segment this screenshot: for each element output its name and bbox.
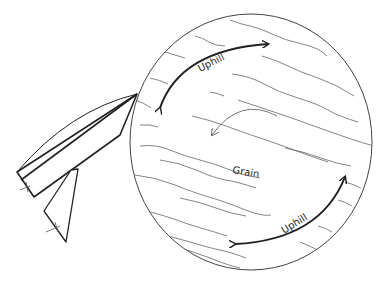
- grain-lines: [135, 20, 384, 268]
- uphill-arrow-bottom: [235, 177, 345, 244]
- tool-bevel-line: [21, 94, 137, 180]
- uphill-arrow-top: [160, 44, 268, 108]
- grain-label: Grain: [232, 164, 261, 180]
- uphill-label-top: Uphill: [196, 51, 226, 74]
- tool-blade: [17, 94, 137, 197]
- rotation-arrow: [212, 109, 277, 135]
- wood-grain-diagram: Uphill Grain Uphill: [0, 0, 388, 286]
- cutting-tool: [17, 94, 137, 242]
